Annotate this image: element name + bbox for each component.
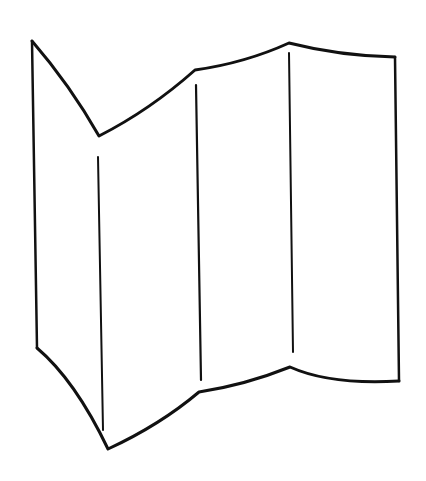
left-edge [32,41,37,348]
fold-line-1 [98,157,103,430]
folding-screen-icon [0,0,426,481]
folding-screen-illustration [0,0,426,481]
right-edge [395,57,399,381]
bottom-edge [37,348,399,449]
top-edge [32,41,395,136]
fold-line-3 [289,53,293,352]
fold-line-2 [196,85,201,380]
